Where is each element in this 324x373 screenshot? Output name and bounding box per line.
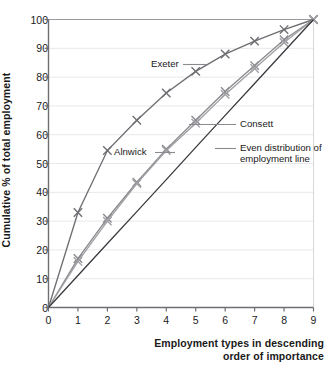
data-point-marker xyxy=(133,179,141,187)
plot-area xyxy=(0,0,324,373)
x-axis-title-line2: order of importance xyxy=(223,350,324,362)
annotation-alnwick: Alnwick xyxy=(114,146,147,158)
x-axis-title-line1: Employment types in descending xyxy=(154,337,324,349)
data-point-marker xyxy=(133,116,141,124)
lorenz-curve-chart: Cumulative % of total employment 0102030… xyxy=(0,0,324,373)
data-point-marker xyxy=(133,178,141,186)
data-point-marker xyxy=(162,89,170,97)
annotation-even-line-1: Even distribution of xyxy=(240,142,322,154)
data-point-marker xyxy=(250,37,258,45)
data-point-marker xyxy=(103,146,111,154)
data-point-marker xyxy=(280,25,288,33)
annotation-exeter: Exeter xyxy=(151,58,179,70)
data-point-marker xyxy=(162,146,170,154)
data-point-marker xyxy=(74,208,82,216)
annotation-even-line-2: employment line xyxy=(240,153,310,165)
annotation-consett: Consett xyxy=(240,118,273,130)
data-point-marker xyxy=(192,67,200,75)
data-point-marker xyxy=(221,50,229,58)
x-axis-title: Employment types in descending order of … xyxy=(110,337,324,363)
